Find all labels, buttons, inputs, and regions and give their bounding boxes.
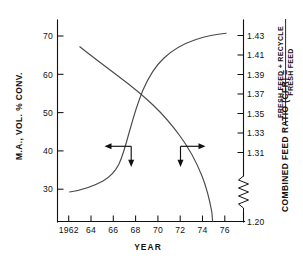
x-tick-label-64: 64 bbox=[86, 225, 96, 235]
right-tick-label-135: 1.35 bbox=[247, 109, 265, 119]
right-tick-label-120: 1.20 bbox=[247, 217, 265, 227]
right-axis-title-fraction: FRESH FEED + RECYCLE FRESH FEED bbox=[277, 19, 295, 125]
x-tick-label-72: 72 bbox=[175, 225, 185, 235]
x-tick-label-70: 70 bbox=[153, 225, 163, 235]
right-tick-label-141: 1.41 bbox=[247, 50, 265, 60]
left-tick-label-30: 30 bbox=[43, 184, 53, 194]
chart-canvas: 70 60 50 40 30 M.A., VOL. % CONV. 1962 6… bbox=[0, 0, 303, 264]
x-tick-label-66: 66 bbox=[108, 225, 118, 235]
x-tick-label-1962: 1962 bbox=[59, 225, 79, 235]
right-tick-label-137: 1.37 bbox=[247, 89, 265, 99]
x-axis-tick-labels: 1962 64 66 68 70 72 74 76 bbox=[59, 225, 230, 235]
left-axis-tick-labels: 70 60 50 40 30 bbox=[43, 31, 53, 194]
chart-figure: 70 60 50 40 30 M.A., VOL. % CONV. 1962 6… bbox=[0, 0, 303, 264]
conversion-arrow-down-head bbox=[178, 160, 184, 167]
right-tick-label-143: 1.43 bbox=[247, 31, 265, 41]
left-tick-label-40: 40 bbox=[43, 146, 53, 156]
right-axis-ticks bbox=[238, 36, 244, 153]
right-axis-break-zigzag bbox=[239, 176, 249, 212]
fraction-denominator: FRESH FEED bbox=[287, 48, 294, 95]
cfr-arrow-left-head bbox=[105, 143, 112, 149]
cfr-arrow-down-head bbox=[128, 160, 134, 167]
x-tick-label-74: 74 bbox=[198, 225, 208, 235]
left-tick-label-50: 50 bbox=[43, 108, 53, 118]
right-tick-label-133: 1.33 bbox=[247, 128, 265, 138]
axis-frame bbox=[58, 20, 249, 222]
x-tick-label-68: 68 bbox=[131, 225, 141, 235]
right-tick-label-139: 1.39 bbox=[247, 70, 265, 80]
left-tick-label-60: 60 bbox=[43, 70, 53, 80]
fraction-numerator: FRESH FEED + RECYCLE bbox=[277, 26, 284, 118]
left-tick-label-70: 70 bbox=[43, 31, 53, 41]
right-axis-tick-labels: 1.43 1.41 1.39 1.37 1.35 1.33 1.31 1.20 bbox=[247, 31, 265, 227]
right-tick-label-131: 1.31 bbox=[247, 148, 265, 158]
left-axis-title: M.A., VOL. % CONV. bbox=[14, 72, 24, 160]
series-conversion-curve bbox=[80, 47, 213, 221]
x-axis-ticks bbox=[69, 216, 225, 222]
right-axis-title-group: COMBINED FEED RATIO (CFR) = FRESH FEED +… bbox=[277, 19, 295, 212]
conversion-curve-arrow bbox=[178, 143, 206, 167]
x-tick-label-76: 76 bbox=[220, 225, 230, 235]
left-axis-ticks bbox=[58, 36, 64, 189]
conversion-arrow-right-head bbox=[199, 143, 206, 149]
x-axis-title: YEAR bbox=[134, 242, 162, 252]
